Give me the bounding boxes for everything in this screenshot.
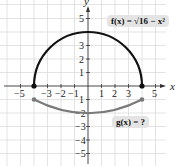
x-tick: −1 <box>68 88 79 99</box>
y-axis-label: y <box>83 0 89 7</box>
y-tick: 2 <box>79 54 84 65</box>
x-tick: 3 <box>126 88 131 99</box>
g-endpoint-right <box>140 97 145 102</box>
x-axis-arrow-icon <box>160 84 166 88</box>
y-tick: 3 <box>79 40 84 51</box>
y-tick: −5 <box>75 148 86 159</box>
x-tick: 5 <box>152 88 157 99</box>
y-tick: 5 <box>79 13 84 24</box>
y-tick: −3 <box>75 121 86 132</box>
f-function-label: f(x) = √16 − x² <box>107 15 169 27</box>
x-tick: 1 <box>99 88 104 99</box>
f-endpoint-left <box>31 83 36 88</box>
x-tick: −3 <box>41 88 52 99</box>
y-tick: 1 <box>79 94 84 105</box>
y-tick: 1 <box>79 67 84 78</box>
g-function-label: g(x) = ? <box>112 116 149 128</box>
x-tick: −2 <box>55 88 66 99</box>
x-axis-label: x <box>169 80 175 92</box>
x-tick: 2 <box>112 88 117 99</box>
x-tick: −5 <box>14 88 25 99</box>
y-tick: −4 <box>75 135 86 146</box>
g-endpoint-left <box>32 97 37 102</box>
f-endpoint-right <box>139 83 144 88</box>
